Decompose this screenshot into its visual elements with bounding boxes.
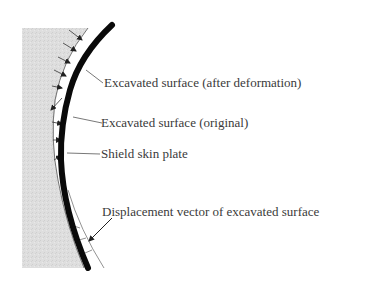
excavation-diagram: Excavated surface (after deformation) Ex…: [0, 0, 391, 289]
label-after-deformation: Excavated surface (after deformation): [104, 75, 301, 90]
displacement-leader-arrow: [89, 218, 112, 241]
label-shield-skin-plate: Shield skin plate: [101, 146, 188, 161]
label-original-surface: Excavated surface (original): [101, 115, 248, 130]
label-displacement-vector: Displacement vector of excavated surface: [102, 204, 320, 219]
